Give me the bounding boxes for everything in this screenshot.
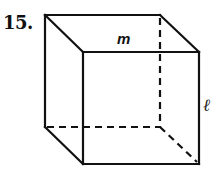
edge-bottom-left-depth bbox=[45, 127, 83, 164]
edge-label-m: m bbox=[117, 30, 130, 47]
cube-drawing bbox=[0, 0, 223, 179]
edge-top-left-depth bbox=[45, 15, 83, 52]
cube-figure: 15. m ℓ bbox=[0, 0, 223, 179]
problem-number: 15. bbox=[3, 12, 33, 33]
hidden-edge-bottom-right-depth bbox=[160, 127, 197, 162]
edge-label-l: ℓ bbox=[203, 95, 210, 116]
edge-top-right-depth bbox=[160, 15, 199, 52]
